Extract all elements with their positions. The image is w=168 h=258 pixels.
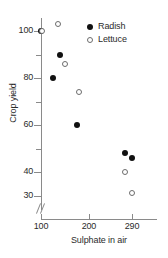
y-axis-line — [41, 18, 42, 210]
y-tick-label: 100 — [7, 26, 33, 35]
data-point-lettuce — [129, 190, 135, 196]
y-tick-mark — [34, 125, 41, 126]
y-tick-label: 40 — [7, 167, 33, 176]
legend-label: Radish — [98, 22, 125, 31]
x-axis-title: Sulphate in air — [41, 235, 157, 245]
data-point-lettuce — [55, 21, 61, 27]
legend: RadishLettuce — [86, 20, 127, 46]
data-point-lettuce — [62, 61, 68, 67]
y-tick-mark — [34, 196, 41, 197]
data-point-radish — [74, 122, 80, 128]
data-point-lettuce — [76, 89, 82, 95]
legend-item-lettuce[interactable]: Lettuce — [86, 33, 127, 46]
open-circle-icon — [86, 35, 95, 44]
x-axis-line — [41, 219, 157, 220]
legend-label: Lettuce — [98, 35, 127, 44]
x-tick-mark — [41, 214, 42, 219]
data-point-radish — [129, 155, 135, 161]
y-minor-tick-mark — [36, 102, 41, 103]
y-minor-tick-mark — [36, 149, 41, 150]
y-tick-label: 30 — [7, 191, 33, 200]
data-point-lettuce — [39, 28, 45, 34]
data-point-lettuce — [122, 169, 128, 175]
x-tick-label: 200 — [72, 221, 106, 231]
data-point-radish — [50, 75, 56, 81]
y-axis-title: Crop yield — [8, 67, 18, 139]
x-tick-mark — [132, 214, 133, 219]
y-tick-mark — [34, 78, 41, 79]
x-tick-mark — [89, 214, 90, 219]
scatter-chart: 10080604030 100200290 Crop yield Sulphat… — [0, 0, 168, 258]
y-tick-mark — [34, 172, 41, 173]
data-point-radish — [57, 52, 63, 58]
x-tick-label: 290 — [115, 221, 149, 231]
legend-item-radish[interactable]: Radish — [86, 20, 127, 33]
filled-circle-icon — [86, 22, 95, 31]
y-minor-tick-mark — [36, 55, 41, 56]
x-tick-label: 100 — [24, 221, 58, 231]
data-point-radish — [122, 150, 128, 156]
